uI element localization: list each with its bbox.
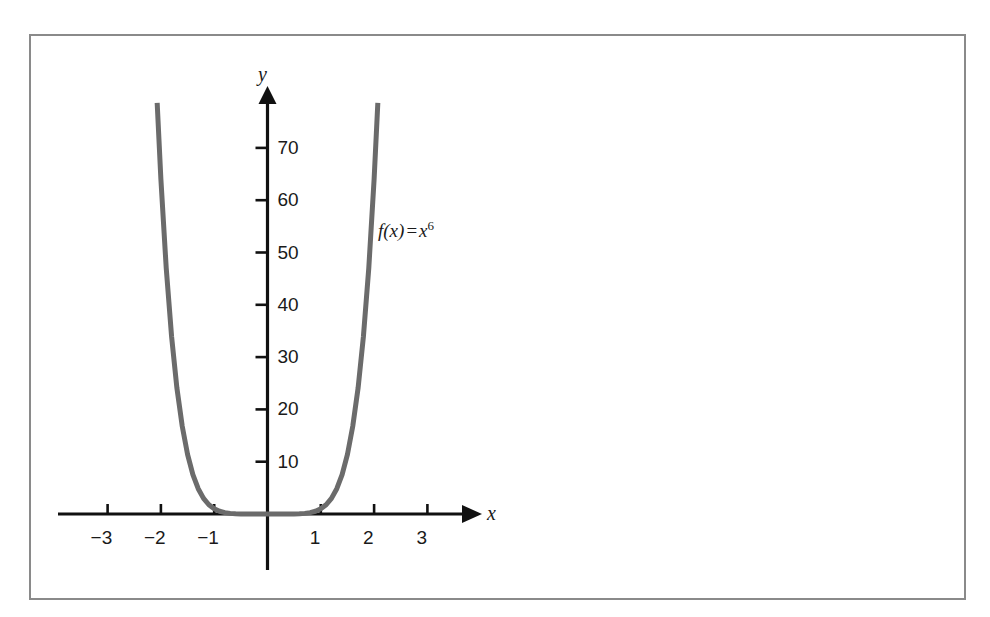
- x-axis-label: x: [487, 503, 496, 523]
- x-tick-label: −3: [91, 528, 113, 547]
- figure-root: −3−2−112310203040506070 x y f(x)=x6: [0, 0, 990, 617]
- axis-group: [58, 86, 482, 570]
- y-axis-label: y: [258, 64, 267, 84]
- x-tick-label: −1: [197, 528, 219, 547]
- y-tick-label: 40: [278, 295, 299, 314]
- function-variable: x: [419, 220, 427, 241]
- y-tick-label: 30: [278, 347, 299, 366]
- plot-area: [0, 0, 990, 617]
- function-argument: (x): [383, 220, 404, 241]
- y-tick-label: 60: [278, 190, 299, 209]
- y-tick-label: 50: [278, 243, 299, 262]
- function-exponent: 6: [428, 218, 435, 233]
- y-axis-arrow: [259, 86, 277, 104]
- x-tick-label: 2: [363, 528, 374, 547]
- y-tick-label: 10: [278, 452, 299, 471]
- x-tick-label: −2: [144, 528, 166, 547]
- y-tick-label: 20: [278, 399, 299, 418]
- y-tick-label: 70: [278, 138, 299, 157]
- curve-function-label: f(x)=x6: [378, 219, 434, 240]
- equals-sign: =: [404, 220, 419, 241]
- x-axis-arrow: [462, 505, 482, 523]
- x-tick-label: 3: [416, 528, 427, 547]
- x-tick-label: 1: [310, 528, 321, 547]
